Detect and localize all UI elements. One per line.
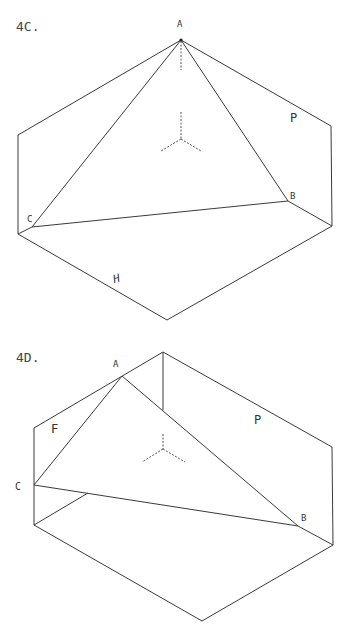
- vertex-a-dot: [179, 38, 182, 41]
- label-f: F: [51, 422, 58, 436]
- edge-cb: [34, 485, 298, 526]
- label-b: B: [290, 191, 295, 201]
- hexagon-outline: [34, 352, 333, 621]
- figure-4c: 4C. A P B C H: [16, 19, 332, 320]
- hexagon-outline: [18, 40, 332, 320]
- edge-ac: [34, 376, 122, 485]
- label-h: H: [111, 271, 122, 286]
- figure-4c-title: 4C.: [16, 19, 39, 34]
- axis-tripod-icon: [161, 112, 201, 151]
- edge-ab: [181, 40, 288, 201]
- figure-4d-title: 4D.: [16, 350, 39, 365]
- edge-cb: [32, 201, 288, 227]
- label-p: P: [290, 111, 297, 125]
- edge-ab: [122, 376, 298, 526]
- edge-b-corner: [298, 526, 333, 545]
- label-p: P: [254, 413, 261, 427]
- label-a: A: [113, 359, 119, 369]
- axis-tripod-icon: [142, 434, 185, 462]
- label-b: B: [301, 513, 306, 523]
- figure-4d: 4D. A F P C B: [15, 350, 333, 621]
- diagram-canvas: 4C. A P B C H 4D.: [0, 0, 355, 627]
- edge-c-corner: [18, 227, 32, 234]
- inner-floor-edge: [34, 493, 88, 525]
- edge-b-corner: [288, 201, 332, 226]
- label-a: A: [177, 19, 183, 29]
- label-c: C: [15, 481, 21, 492]
- label-c: C: [27, 214, 32, 224]
- edge-ac: [32, 40, 181, 227]
